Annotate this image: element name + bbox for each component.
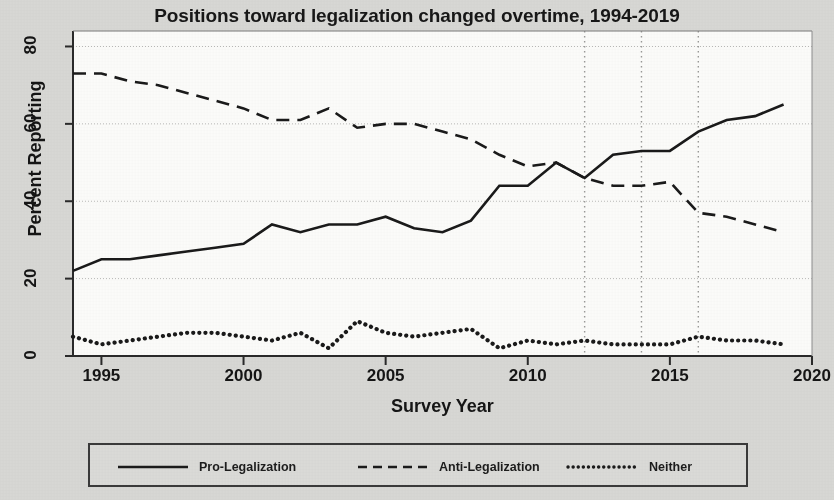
chart-figure: Positions toward legalization changed ov… [0, 0, 834, 500]
x-tick-label: 1995 [66, 366, 136, 386]
y-tick-label: 20 [21, 258, 41, 298]
legend-item-neither[interactable]: Neither [566, 457, 692, 477]
legend-label: Pro-Legalization [199, 460, 296, 474]
y-tick-label: 40 [21, 180, 41, 220]
legend-swatch-dotted [566, 461, 640, 473]
chart-legend: Pro-LegalizationAnti-LegalizationNeither [88, 443, 748, 487]
legend-swatch-solid [116, 461, 190, 473]
legend-item-pro-legalization[interactable]: Pro-Legalization [116, 457, 296, 477]
x-tick-label: 2010 [493, 366, 563, 386]
legend-label: Neither [649, 460, 692, 474]
y-tick-label: 80 [21, 25, 41, 65]
x-tick-label: 2020 [777, 366, 834, 386]
y-tick-label: 0 [21, 335, 41, 375]
plot-area [0, 0, 834, 500]
x-tick-label: 2015 [635, 366, 705, 386]
x-tick-label: 2000 [209, 366, 279, 386]
y-tick-label: 60 [21, 103, 41, 143]
plot-background [73, 31, 812, 356]
legend-item-anti-legalization[interactable]: Anti-Legalization [356, 457, 540, 477]
legend-label: Anti-Legalization [439, 460, 540, 474]
legend-swatch-dashed [356, 461, 430, 473]
x-tick-label: 2005 [351, 366, 421, 386]
